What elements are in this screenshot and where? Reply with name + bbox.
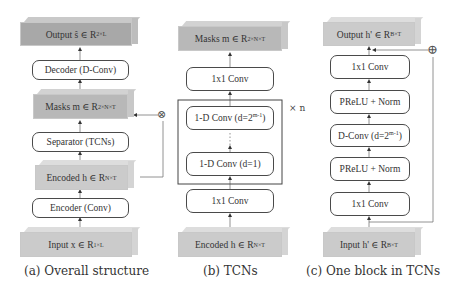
conv1x1-label: 1x1 Conv [211, 74, 248, 84]
input-label: Input x ∈ R [48, 239, 93, 250]
output-label: Output h' ∈ R [337, 29, 390, 40]
conv1x1-bottom-box: 1x1 Conv [186, 189, 274, 213]
input-tensor-c: Input h' ∈ RB×T [323, 227, 415, 257]
conv1x1-top-box: 1x1 Conv [186, 67, 274, 91]
conv1x1-top-box-c: 1x1 Conv [330, 55, 410, 79]
repeat-n-label: × n [289, 103, 305, 113]
output-tensor-c: Output h' ∈ RB×T [323, 17, 415, 46]
dconv-box: D-Conv (d=2m-1) [330, 124, 410, 147]
input-label: Input h' ∈ R [340, 239, 387, 250]
prelu-norm-label: PReLU + Norm [340, 97, 401, 107]
conv1x1-label: 1x1 Conv [351, 199, 388, 209]
dconv-label: D-Conv (d=2m-1) [338, 130, 402, 141]
output-label: Output ŝ ∈ R [46, 29, 97, 40]
decoder-label: Decoder (D-Conv) [45, 65, 117, 75]
conv1x1-bottom-box-c: 1x1 Conv [330, 192, 410, 216]
conv1x1-label: 1x1 Conv [211, 196, 248, 206]
prelu-norm-label: PReLU + Norm [340, 164, 401, 174]
separator-box: Separator (TCNs) [32, 132, 129, 152]
separator-label: Separator (TCNs) [47, 137, 115, 147]
input-tensor-a: Input x ∈ R1×L [20, 227, 132, 257]
prelu-norm-top-box: PReLU + Norm [330, 90, 410, 114]
caption-b: (b) TCNs [203, 264, 258, 278]
encoder-box: Encoder (Conv) [32, 198, 129, 218]
prelu-norm-bottom-box: PReLU + Norm [330, 157, 410, 181]
masks-label: Masks m ∈ R [45, 101, 98, 112]
dilated-conv-box: 1-D Conv (d=2m-1) [186, 106, 274, 130]
masks-tensor-a: Masks m ∈ R2×N×T [33, 89, 128, 119]
encoder-label: Encoder (Conv) [50, 203, 111, 213]
encoded-tensor-a: Encoded h ∈ RN×T [35, 160, 128, 190]
masks-dim: 2×N×T [247, 36, 265, 42]
decoder-box: Decoder (D-Conv) [32, 60, 129, 80]
input-dim: B×T [387, 242, 398, 248]
encoded-label: Encoded h ∈ R [47, 172, 105, 183]
conv1x1-label: 1x1 Conv [351, 62, 388, 72]
dilated-conv-label: 1-D Conv (d=2m-1) [195, 112, 266, 123]
caption-a: (a) Overall structure [24, 264, 149, 278]
masks-dim: 2×N×T [98, 104, 116, 110]
encoded-label: Encoded h ∈ R [195, 239, 253, 250]
input-dim: 1×L [94, 242, 104, 248]
conv-d1-label: 1-D Conv (d=1) [199, 159, 260, 169]
caption-c: (c) One block in TCNs [306, 264, 440, 278]
masks-label: Masks m ∈ R [195, 33, 248, 44]
encoded-tensor-b: Encoded h ∈ RN×T [178, 227, 282, 257]
encoded-dim: N×T [105, 175, 116, 181]
output-dim: B×T [390, 31, 401, 37]
output-dim: 2×L [96, 31, 106, 37]
conv-d1-box: 1-D Conv (d=1) [186, 152, 274, 176]
multiply-icon: ⊗ [157, 108, 166, 121]
encoded-dim: N×T [254, 242, 265, 248]
add-icon: ⊕ [427, 42, 438, 57]
output-tensor-a: Output ŝ ∈ R2×L [20, 17, 132, 46]
masks-tensor-b: Masks m ∈ R2×N×T [178, 21, 282, 51]
